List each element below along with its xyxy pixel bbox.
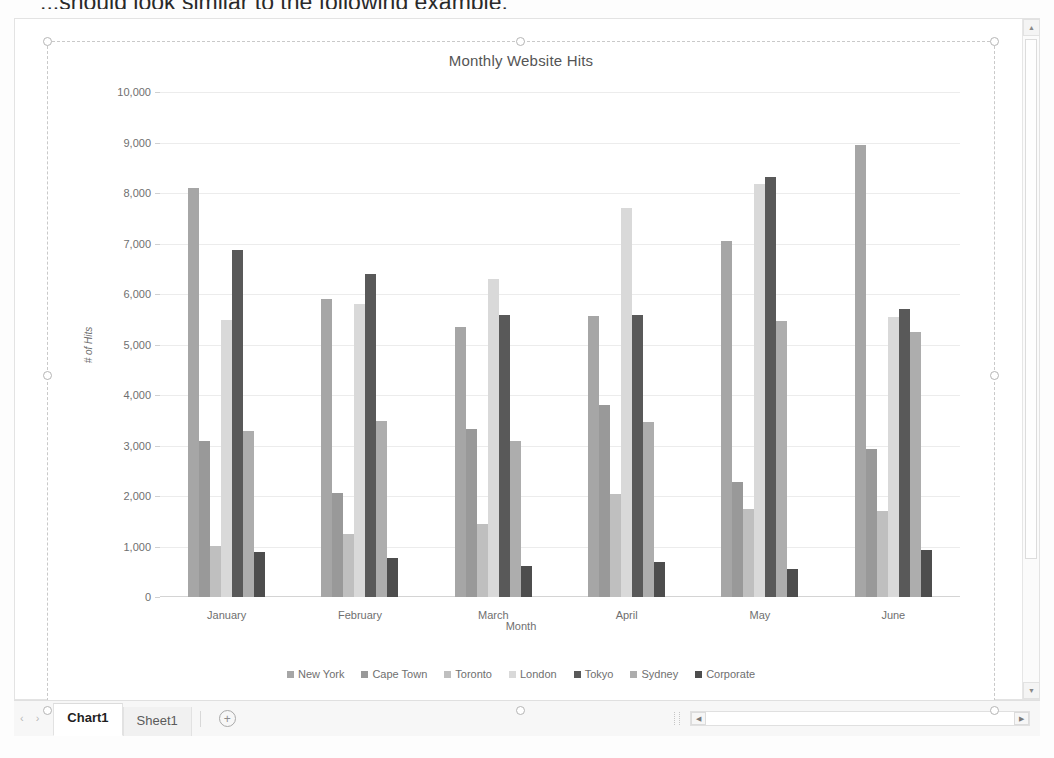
resize-handle-top-right[interactable] xyxy=(990,37,999,46)
bar-group xyxy=(427,92,560,597)
y-tick-label: 10,000 xyxy=(117,86,151,98)
resize-handle-middle-right[interactable] xyxy=(990,371,999,380)
bar[interactable] xyxy=(321,299,332,597)
sheet-tabs: Chart1Sheet1 xyxy=(45,701,191,736)
split-handle[interactable] xyxy=(674,712,680,725)
tab-separator xyxy=(200,711,201,727)
scroll-down-icon[interactable]: ▼ xyxy=(1023,682,1040,699)
bar[interactable] xyxy=(188,188,199,597)
bar-group xyxy=(293,92,426,597)
legend-label: Corporate xyxy=(706,668,755,680)
horizontal-scrollbar[interactable]: ◀ ▶ xyxy=(690,711,1030,726)
sheet-tab-chart1[interactable]: Chart1 xyxy=(53,703,122,736)
bar-group xyxy=(827,92,960,597)
add-sheet-icon[interactable]: + xyxy=(219,710,236,727)
bar[interactable] xyxy=(343,534,354,597)
bar[interactable] xyxy=(365,274,376,597)
bar[interactable] xyxy=(243,431,254,597)
bar[interactable] xyxy=(599,405,610,597)
legend-item[interactable]: Toronto xyxy=(444,668,492,680)
vertical-scroll-thumb[interactable] xyxy=(1025,39,1037,559)
legend-label: New York xyxy=(298,668,344,680)
legend-item[interactable]: Sydney xyxy=(630,668,678,680)
document-cutoff-text: ...should look similar to the following … xyxy=(40,0,840,9)
bar-groups xyxy=(160,92,960,597)
bar[interactable] xyxy=(765,177,776,597)
resize-handle-top-left[interactable] xyxy=(43,37,52,46)
vertical-scrollbar[interactable]: ▲ ▼ xyxy=(1022,19,1039,699)
plot-area[interactable]: # of Hits 01,0002,0003,0004,0005,0006,00… xyxy=(160,92,960,597)
legend-swatch-icon xyxy=(574,671,581,678)
legend-label: Cape Town xyxy=(372,668,427,680)
bar[interactable] xyxy=(354,304,365,597)
x-axis-title[interactable]: Month xyxy=(48,620,994,632)
bar[interactable] xyxy=(877,511,888,597)
bar[interactable] xyxy=(332,493,343,597)
bar[interactable] xyxy=(910,332,921,597)
chart-legend[interactable]: New YorkCape TownTorontoLondonTokyoSydne… xyxy=(48,668,994,680)
resize-handle-bottom-middle[interactable] xyxy=(516,706,525,715)
sheet-tab-sheet1[interactable]: Sheet1 xyxy=(123,707,192,736)
legend-swatch-icon xyxy=(287,671,294,678)
legend-item[interactable]: Tokyo xyxy=(574,668,614,680)
bar[interactable] xyxy=(732,482,743,597)
sheet-next-icon[interactable]: › xyxy=(36,713,40,724)
y-tick-label: 9,000 xyxy=(123,137,151,149)
chart-title[interactable]: Monthly Website Hits xyxy=(48,52,994,69)
horizontal-scroll-region: ◀ ▶ xyxy=(674,701,1040,736)
scroll-left-icon[interactable]: ◀ xyxy=(691,712,706,725)
bar[interactable] xyxy=(721,241,732,597)
scroll-right-icon[interactable]: ▶ xyxy=(1014,712,1029,725)
resize-handle-middle-left[interactable] xyxy=(43,371,52,380)
bar[interactable] xyxy=(254,552,265,597)
resize-handle-top-middle[interactable] xyxy=(516,37,525,46)
sheet-nav-buttons[interactable]: ‹ › xyxy=(14,713,45,724)
resize-handle-bottom-left[interactable] xyxy=(43,706,52,715)
bar[interactable] xyxy=(477,524,488,597)
bar[interactable] xyxy=(232,250,243,597)
bar[interactable] xyxy=(488,279,499,597)
legend-item[interactable]: Cape Town xyxy=(361,668,427,680)
bar[interactable] xyxy=(654,562,665,597)
y-tick-mark xyxy=(155,597,160,598)
legend-item[interactable]: New York xyxy=(287,668,344,680)
bar[interactable] xyxy=(632,315,643,597)
bar[interactable] xyxy=(610,494,621,597)
bar[interactable] xyxy=(221,320,232,597)
y-axis-title[interactable]: # of Hits xyxy=(83,326,94,363)
bar[interactable] xyxy=(743,509,754,597)
bar-group xyxy=(560,92,693,597)
bar[interactable] xyxy=(376,421,387,597)
y-tick-label: 2,000 xyxy=(123,490,151,502)
y-tick-label: 1,000 xyxy=(123,541,151,553)
resize-handle-bottom-right[interactable] xyxy=(990,706,999,715)
bar[interactable] xyxy=(210,546,221,597)
bar[interactable] xyxy=(621,208,632,597)
bar[interactable] xyxy=(521,566,532,597)
bar[interactable] xyxy=(899,309,910,597)
bar[interactable] xyxy=(888,317,899,597)
bar[interactable] xyxy=(499,315,510,597)
y-tick-label: 0 xyxy=(145,591,151,603)
bar[interactable] xyxy=(866,449,877,597)
legend-swatch-icon xyxy=(509,671,516,678)
bar[interactable] xyxy=(588,316,599,597)
bar[interactable] xyxy=(466,429,477,597)
sheet-prev-icon[interactable]: ‹ xyxy=(20,713,24,724)
bar[interactable] xyxy=(855,145,866,597)
bar[interactable] xyxy=(455,327,466,597)
legend-item[interactable]: Corporate xyxy=(695,668,755,680)
bar[interactable] xyxy=(199,441,210,597)
bar[interactable] xyxy=(510,441,521,597)
bar[interactable] xyxy=(754,184,765,597)
horizontal-scroll-thumb[interactable] xyxy=(706,712,1014,725)
legend-item[interactable]: London xyxy=(509,668,557,680)
bar[interactable] xyxy=(921,550,932,597)
chart-object[interactable]: Monthly Website Hits # of Hits 01,0002,0… xyxy=(47,41,995,711)
bar[interactable] xyxy=(776,321,787,597)
bar[interactable] xyxy=(387,558,398,597)
bar[interactable] xyxy=(787,569,798,597)
scroll-up-icon[interactable]: ▲ xyxy=(1023,19,1040,36)
legend-swatch-icon xyxy=(361,671,368,678)
bar[interactable] xyxy=(643,422,654,597)
